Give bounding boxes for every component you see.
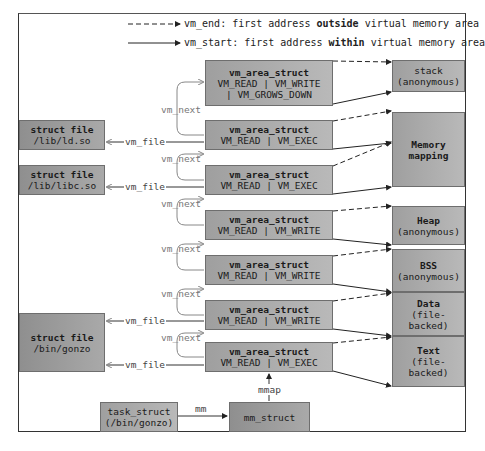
vm-area-struct-heap: vm_area_struct VM_READ | VM_WRITE (205, 210, 333, 240)
struct-file-ld: struct file /lib/ld.so (19, 120, 105, 150)
region-text: Text (file- backed) (392, 336, 465, 387)
region-stack: stack (anonymous) (392, 60, 465, 92)
mmap-label: mmap (258, 384, 281, 395)
task-struct: task_struct (/bin/gonzo) (100, 402, 178, 432)
vm-file-label: vm_file (124, 359, 166, 370)
vm-area-struct-ld: vm_area_struct VM_READ | VM_EXEC (205, 120, 333, 150)
vm-next-label: vm_next (161, 243, 201, 254)
vm-file-label: vm_file (124, 315, 166, 326)
vm-area-struct-bss: vm_area_struct VM_READ | VM_WRITE (205, 255, 333, 285)
vm-file-label: vm_file (124, 181, 166, 192)
vm-file-label: vm_file (124, 136, 166, 147)
vm-area-struct-libc: vm_area_struct VM_READ | VM_EXEC (205, 165, 333, 195)
vm-next-label: vm_next (161, 332, 201, 343)
vm-next-label: vm_next (161, 288, 201, 299)
struct-file-gonzo: struct file /bin/gonzo (19, 313, 105, 372)
vm-next-label: vm_next (161, 198, 201, 209)
region-data: Data (file- backed) (392, 292, 465, 336)
region-memory-mapping: Memory mapping (392, 112, 465, 187)
vm-next-label: vm_next (161, 104, 201, 115)
mm-struct: mm_struct (229, 402, 310, 432)
vm-next-label: vm_next (161, 153, 201, 164)
region-bss: BSS (anonymous) (392, 249, 465, 292)
mm-label: mm (195, 403, 206, 414)
legend-vm-start: vm_start: first address within virtual m… (184, 37, 485, 48)
region-heap: Heap (anonymous) (392, 206, 465, 245)
vm-area-struct-data: vm_area_struct VM_READ | VM_WRITE (205, 300, 333, 330)
struct-file-libc: struct file /lib/libc.so (19, 165, 105, 195)
legend-vm-end: vm_end: first address outside virtual me… (184, 18, 479, 29)
vm-area-struct-text: vm_area_struct VM_READ | VM_EXEC (205, 342, 333, 372)
vm-area-struct-stack: vm_area_struct VM_READ | VM_WRITE | VM_G… (205, 60, 333, 106)
